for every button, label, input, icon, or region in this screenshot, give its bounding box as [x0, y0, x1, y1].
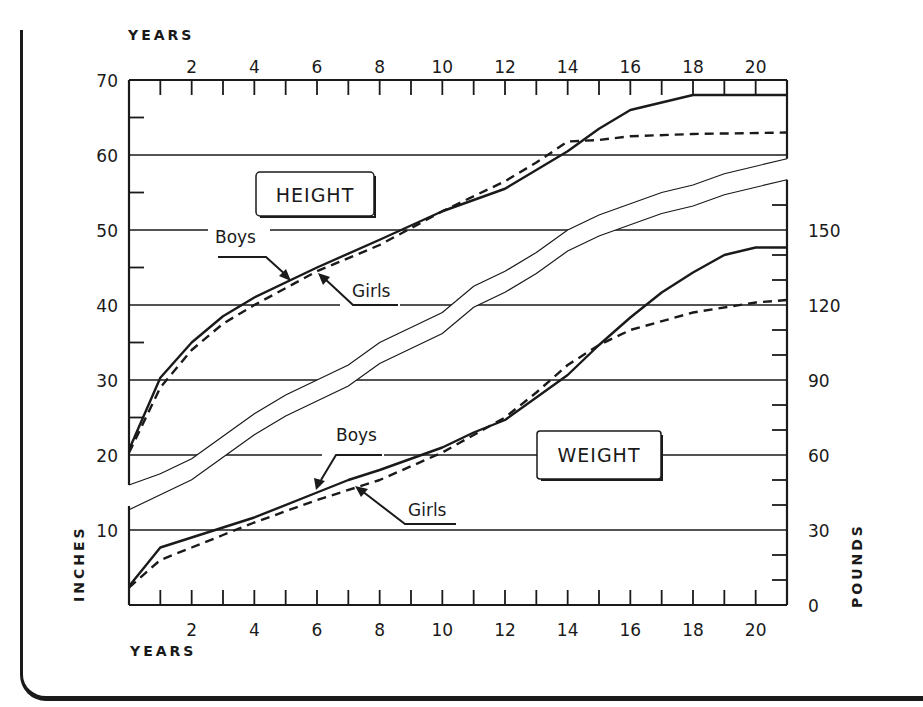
y-axis-title-right: POUNDS	[849, 523, 865, 608]
y-axis-title-left: INCHES	[71, 525, 87, 602]
xTopLabels-10: 10	[432, 57, 454, 77]
x-tick-labels-bottom: 2468101214161820	[186, 620, 766, 640]
xBottomLabels-14: 14	[557, 620, 579, 640]
leftLabels-20: 20	[96, 446, 118, 466]
panel-separator-band	[129, 159, 787, 510]
xTopLabels-18: 18	[682, 57, 704, 77]
leftLabels-10: 10	[96, 521, 118, 541]
x-axis-title-bottom: YEARS	[129, 643, 196, 659]
height-girls-label: Girls	[352, 281, 391, 301]
xBottomLabels-20: 20	[745, 620, 767, 640]
height-label-box: HEIGHT	[256, 172, 376, 218]
xTopLabels-16: 16	[620, 57, 642, 77]
xBottomLabels-4: 4	[249, 620, 260, 640]
weight-girls-annotation: Girls	[355, 486, 456, 524]
rightLabels-30: 30	[808, 521, 830, 541]
xTopLabels-12: 12	[494, 57, 516, 77]
rightLabels-60: 60	[808, 446, 830, 466]
series-lines	[129, 95, 787, 588]
height-girls-annotation: Girls	[318, 273, 400, 315]
leftLabels-50: 50	[96, 221, 118, 241]
height-boys-line	[129, 95, 787, 450]
leftLabels-30: 30	[96, 371, 118, 391]
xBottomLabels-2: 2	[186, 620, 197, 640]
leftLabels-40: 40	[96, 296, 118, 316]
xTopLabels-2: 2	[186, 57, 197, 77]
height-label: HEIGHT	[276, 184, 355, 206]
leftLabels-70: 70	[96, 71, 118, 91]
weight-boys-label: Boys	[336, 425, 377, 445]
xBottomLabels-6: 6	[312, 620, 323, 640]
xTopLabels-4: 4	[249, 57, 260, 77]
x-axis-title-top: YEARS	[127, 27, 194, 43]
y-tick-labels-right: 1501209060300	[808, 221, 840, 616]
y-tick-labels-left: 70605040302010	[96, 71, 118, 541]
xTopLabels-8: 8	[374, 57, 385, 77]
xBottomLabels-10: 10	[432, 620, 454, 640]
xTopLabels-6: 6	[312, 57, 323, 77]
weight-label-box: WEIGHT	[537, 431, 663, 481]
rightLabels-90: 90	[808, 371, 830, 391]
height-boys-label: Boys	[215, 227, 256, 247]
weight-boys-line	[129, 248, 787, 587]
xTopLabels-20: 20	[745, 57, 767, 77]
x-tick-labels-top: 2468101214161820	[186, 57, 766, 77]
weight-label: WEIGHT	[557, 444, 640, 466]
rightLabels-150: 150	[808, 221, 840, 241]
xBottomLabels-16: 16	[620, 620, 642, 640]
rightLabels-120: 120	[808, 296, 840, 316]
xBottomLabels-8: 8	[374, 620, 385, 640]
xTopLabels-14: 14	[557, 57, 579, 77]
xBottomLabels-12: 12	[494, 620, 516, 640]
height-girls-line	[129, 133, 787, 453]
xBottomLabels-18: 18	[682, 620, 704, 640]
height-boys-annotation: Boys	[208, 224, 291, 281]
weight-girls-label: Girls	[408, 500, 447, 520]
gridlines	[129, 155, 787, 530]
leftLabels-60: 60	[96, 146, 118, 166]
rightLabels-0: 0	[808, 596, 819, 616]
